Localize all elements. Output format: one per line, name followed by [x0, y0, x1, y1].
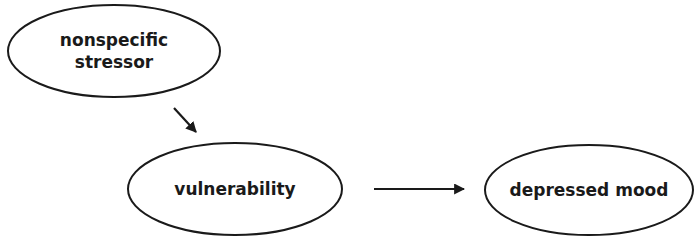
node-vulnerability: vulnerability — [128, 143, 342, 235]
node-label-line2: stressor — [75, 52, 154, 72]
node-label: vulnerability — [174, 179, 295, 199]
node-depressed-mood: depressed mood — [485, 145, 693, 235]
arrow-stressor-to-vulnerability — [174, 108, 196, 132]
node-ellipse — [8, 5, 220, 97]
node-label-line1: nonspecific — [60, 30, 168, 50]
node-label: depressed mood — [510, 180, 669, 200]
diagram-canvas: nonspecific stressor vulnerability depre… — [0, 0, 698, 241]
node-nonspecific-stressor: nonspecific stressor — [8, 5, 220, 97]
